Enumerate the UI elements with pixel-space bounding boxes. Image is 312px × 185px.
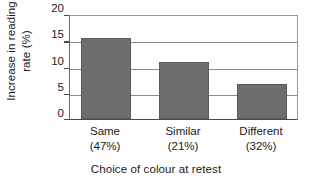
- x-tick-sublabel-similar: (21%): [143, 139, 223, 154]
- x-tick-label-same: Same: [65, 124, 145, 139]
- bar-same: [81, 38, 131, 119]
- x-tick-group-similar: Similar (21%): [143, 124, 223, 154]
- x-tick-sublabel-different: (32%): [221, 139, 301, 154]
- bar-chart-figure: Increase in reading rate (%) 20 15 10 5 …: [0, 0, 312, 185]
- x-tick-group-different: Different (32%): [221, 124, 301, 154]
- bar-similar: [159, 62, 209, 119]
- y-axis-title: Increase in reading rate (%): [4, 0, 40, 111]
- y-axis-tick-labels: 20 15 10 5 0: [38, 15, 64, 120]
- x-tick-label-similar: Similar: [143, 124, 223, 139]
- plot-area: [69, 15, 298, 120]
- bar-different: [237, 84, 287, 119]
- y-tick-label-15: 15: [38, 28, 64, 41]
- y-axis-title-line-1: Increase in reading: [4, 0, 19, 111]
- x-axis-title: Choice of colour at retest: [0, 163, 312, 175]
- x-tick-sublabel-same: (47%): [65, 139, 145, 154]
- x-tick-group-same: Same (47%): [65, 124, 145, 154]
- y-tick-label-10: 10: [38, 55, 64, 68]
- y-tick-label-0: 0: [38, 107, 64, 120]
- x-axis-tick-labels: Same (47%) Similar (21%) Different (32%): [69, 124, 298, 158]
- y-tick-label-20: 20: [38, 2, 64, 15]
- x-tick-label-different: Different: [221, 124, 301, 139]
- y-axis-title-line-2: rate (%): [19, 0, 34, 111]
- y-tick-label-5: 5: [38, 81, 64, 94]
